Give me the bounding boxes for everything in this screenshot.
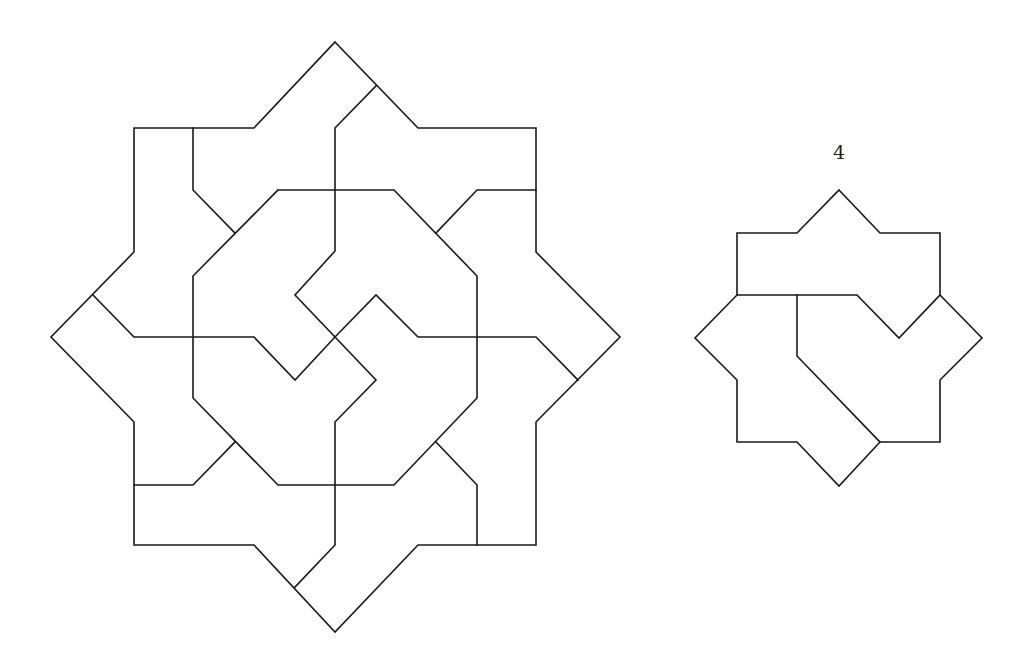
inner-line — [436, 442, 477, 545]
small-star-piece-4 — [695, 190, 982, 486]
diagram-canvas — [0, 0, 1036, 669]
figure-label-4: 4 — [833, 143, 845, 162]
outline — [695, 190, 982, 486]
inner-line — [134, 442, 235, 485]
large-star-tiling — [51, 42, 620, 632]
inner-line — [797, 295, 880, 442]
inner-line — [436, 190, 536, 233]
inner-line — [93, 295, 578, 380]
inner-line — [737, 295, 940, 338]
inner-line — [193, 128, 235, 233]
